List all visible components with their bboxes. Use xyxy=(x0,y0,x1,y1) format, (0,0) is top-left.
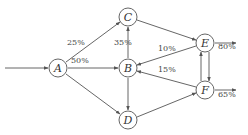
edge-a-d xyxy=(66,74,120,114)
node-e: E xyxy=(196,34,214,52)
edge-label-a-c: 25% xyxy=(67,38,85,47)
edge-label-e-output: 80% xyxy=(218,42,236,51)
node-f-label: F xyxy=(200,84,209,97)
node-b-label: B xyxy=(123,62,132,75)
edge-label-e-b: 10% xyxy=(158,44,176,53)
node-e-label: E xyxy=(200,37,209,50)
node-d-label: D xyxy=(123,114,133,127)
edge-label-a-b: 50% xyxy=(71,56,89,65)
node-b: B xyxy=(119,59,137,77)
node-d: D xyxy=(119,111,137,129)
node-c-label: C xyxy=(124,11,133,24)
edge-d-f xyxy=(137,93,196,117)
node-f: F xyxy=(196,81,214,99)
edge-c-e xyxy=(137,20,196,40)
node-a-label: A xyxy=(53,62,62,75)
node-c: C xyxy=(119,8,137,26)
node-a: A xyxy=(49,59,67,77)
edge-label-f-output: 65% xyxy=(218,90,236,99)
flow-diagram: 25% 50% 35% 10% 15% 80% 65% A B C D E F xyxy=(0,0,248,135)
edge-label-b-c: 35% xyxy=(114,38,132,47)
edge-label-f-b: 15% xyxy=(158,65,176,74)
